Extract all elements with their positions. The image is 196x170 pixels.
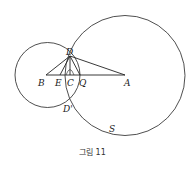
label-Q: Q [79, 78, 87, 88]
label-E: E [54, 78, 62, 88]
label-B: B [37, 78, 45, 88]
geometry-diagram: D B E C Q A D' S 그림 11 [0, 0, 196, 170]
large-circle [65, 16, 185, 136]
figure-caption: 그림 11 [79, 147, 106, 157]
label-A: A [123, 78, 131, 88]
label-S: S [109, 124, 115, 134]
label-C: C [67, 78, 74, 88]
label-D-prime: D' [62, 104, 73, 114]
label-D: D [65, 47, 73, 57]
segment-DB [46, 56, 70, 75]
